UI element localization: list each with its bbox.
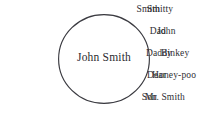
right-label-text-4: Mr. Smith (145, 92, 185, 102)
right-label-2: Binkey (161, 48, 189, 58)
right-label-text-0: Smitty (147, 4, 173, 14)
right-label-0: Smitty (147, 4, 173, 14)
right-label-text-3: Honey-poo (152, 70, 196, 80)
right-label-4: Mr. Smith (145, 92, 185, 102)
center-label: John Smith (57, 51, 151, 64)
right-label-1: John (157, 26, 176, 36)
name-variants-diagram: Smith Dad Daddy Dear Son John Smith Smit… (0, 0, 219, 113)
center-label-text: John Smith (77, 51, 131, 63)
right-label-text-1: John (157, 26, 176, 36)
right-label-3: Honey-poo (152, 70, 196, 80)
right-label-text-2: Binkey (161, 48, 189, 58)
